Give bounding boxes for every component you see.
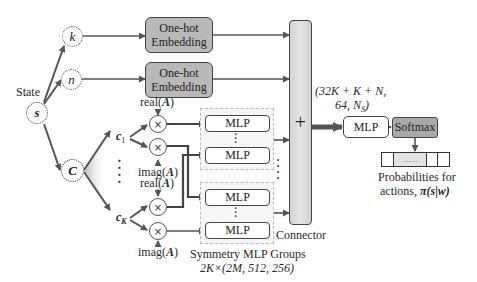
prob-cell <box>437 152 450 167</box>
embedding-n-line2: Embedding <box>151 80 206 94</box>
probabilities-label-line1: Probabilities for <box>378 171 456 184</box>
node-s: s <box>26 102 48 124</box>
state-label: State <box>16 86 40 99</box>
var-A: A <box>162 176 170 190</box>
actions-prefix: actions, <box>380 184 420 198</box>
mlp-box-1b: MLP <box>205 147 270 164</box>
final-mlp-box: MLP <box>343 116 389 138</box>
mlp-box-1a: MLP <box>205 115 270 132</box>
embedding-k-line1: One-hot <box>159 21 198 35</box>
final-mlp-dims-line2: 64, NS) <box>335 99 369 116</box>
imag-prefix: imag( <box>138 245 166 259</box>
node-n: n <box>61 69 82 90</box>
multiply-node-real-K: × <box>149 198 167 216</box>
node-C: C <box>61 159 84 182</box>
var-A: A <box>162 95 170 109</box>
real-prefix: real( <box>140 95 162 109</box>
label-cK: cK <box>116 211 127 228</box>
embedding-box-k: One-hot Embedding <box>145 17 213 53</box>
symmetry-group-label: Symmetry MLP Groups <box>190 248 306 261</box>
vertical-dots-groups: ···· <box>276 157 280 181</box>
suffix: ) <box>174 245 178 259</box>
probability-vector: …… <box>381 152 453 167</box>
prob-cell-ellipsis: …… <box>393 152 427 167</box>
multiply-node-imag-1: × <box>149 138 167 156</box>
mlp-box-Kb: MLP <box>205 222 270 239</box>
dims-line2-end: ) <box>365 98 369 112</box>
embedding-k-line2: Embedding <box>151 35 206 49</box>
c1-subscript: 1 <box>121 136 125 145</box>
label-imag-A-2: imag(A) <box>138 246 178 259</box>
cK-subscript: K <box>121 217 126 226</box>
multiply-node-imag-K: × <box>149 222 167 240</box>
var-A: A <box>166 245 174 259</box>
suffix: ) <box>174 165 178 179</box>
vertical-dots-c: ···· <box>117 158 122 186</box>
label-real-A-2: real(A) <box>140 177 174 190</box>
vertical-dots-group-K: ··· <box>234 207 237 219</box>
label-c1: c1 <box>116 130 125 147</box>
connector-label: Connector <box>276 229 326 242</box>
policy-math: π(s|w) <box>420 184 450 198</box>
node-k: k <box>62 26 83 47</box>
vertical-dots-group-1: ··· <box>234 133 237 145</box>
suffix: ) <box>170 95 174 109</box>
final-mlp-dims-line1: (32K + K + N, <box>315 85 386 98</box>
dims-line2-main: 64, N <box>335 98 361 112</box>
label-real-A-1: real(A) <box>140 96 174 109</box>
symmetry-group-dims: 2K×(2M, 512, 256) <box>200 262 294 275</box>
multiply-node-real-1: × <box>149 115 167 133</box>
connector-block: + <box>289 20 312 225</box>
embedding-box-n: One-hot Embedding <box>145 62 213 98</box>
softmax-box: Softmax <box>392 117 438 138</box>
real-prefix: real( <box>140 176 162 190</box>
suffix: ) <box>170 176 174 190</box>
embedding-n-line1: One-hot <box>159 66 198 80</box>
probabilities-label-line2: actions, π(s|w) <box>380 185 450 198</box>
mlp-box-Ka: MLP <box>205 189 270 206</box>
